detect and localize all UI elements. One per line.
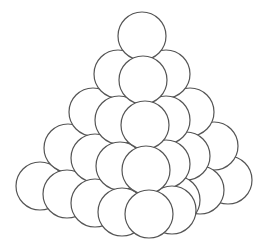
sphere-circle xyxy=(119,56,167,104)
sphere-circle xyxy=(121,101,169,149)
sphere-circle xyxy=(118,12,166,60)
sphere-circle xyxy=(125,190,173,238)
sphere-pyramid-diagram xyxy=(0,0,264,251)
sphere-circle xyxy=(122,146,170,194)
spheres-group xyxy=(16,12,252,238)
